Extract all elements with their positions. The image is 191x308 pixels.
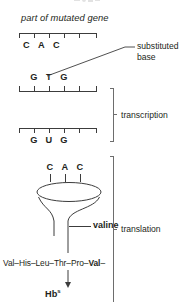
- dna-sense-tick: [19, 33, 20, 38]
- mrna-tick: [49, 128, 50, 133]
- peptide-residue-valine-bold: Val: [88, 258, 100, 268]
- product-symbol: Hb: [45, 289, 57, 299]
- dna-sense-tick: [64, 33, 65, 38]
- trna-anticodon-base: A: [59, 162, 71, 172]
- mrna-tick: [96, 128, 97, 133]
- substituted-base-label-line2: base: [137, 52, 179, 63]
- transcription-bracket-bottom-cap: [110, 141, 114, 142]
- translation-label: translation: [121, 224, 161, 235]
- translation-bracket-nub: [113, 229, 117, 230]
- dna-template-tick: [19, 86, 20, 91]
- mrna-base: G: [28, 135, 40, 145]
- product-superscript: s: [57, 288, 60, 294]
- valine-leader: [69, 225, 91, 228]
- mrna-strand: G U G: [19, 128, 97, 148]
- dna-sense-base: C: [21, 40, 33, 50]
- peptide-trailing-dash: –: [100, 258, 105, 268]
- peptide-residues-plain: Val–His–Leu–Thr–Pro–: [3, 258, 88, 268]
- figure-caption: part of mutated gene: [21, 12, 109, 23]
- peptide-chain: Val–His–Leu–Thr–Pro–Val–: [3, 258, 105, 268]
- transcription-bracket: [110, 88, 120, 142]
- dna-sense-base: A: [36, 40, 48, 50]
- mrna-base: U: [43, 135, 55, 145]
- substituted-base-label-line1: substituted: [137, 41, 179, 52]
- mrna-tick: [64, 128, 65, 133]
- trna-anticodon-base: C: [44, 162, 56, 172]
- dna-template-tick: [49, 86, 50, 91]
- substituted-base-label: substituted base: [137, 41, 179, 62]
- dna-sense-tick: [34, 33, 35, 38]
- substituted-base-leader: [47, 45, 135, 79]
- mrna-tick: [79, 128, 80, 133]
- mrna-backbone: [19, 128, 97, 129]
- transcription-label: transcription: [121, 110, 168, 121]
- dna-template-tick: [79, 86, 80, 91]
- dna-sense-tick: [79, 33, 80, 38]
- clipped-top-artifact: [74, 0, 100, 4]
- dna-template-tick: [96, 86, 97, 91]
- trna-anticodon-base: C: [74, 162, 86, 172]
- trna-molecule-shape: [30, 181, 110, 253]
- product-arrow: [62, 270, 74, 290]
- translation-bracket: [110, 156, 120, 302]
- mrna-base: G: [58, 135, 70, 145]
- dna-sense-backbone: [19, 33, 97, 34]
- dna-template-tick: [64, 86, 65, 91]
- product-label: Hbs: [45, 288, 61, 299]
- dna-template-backbone: [19, 91, 97, 92]
- dna-sense-tick: [96, 33, 97, 38]
- dna-template-tick: [34, 86, 35, 91]
- mrna-tick: [19, 128, 20, 133]
- dna-template-base: G: [28, 72, 40, 82]
- transcription-bracket-nub: [113, 114, 117, 115]
- dna-sense-tick: [49, 33, 50, 38]
- transcription-bracket-spine: [113, 88, 114, 142]
- mrna-tick: [34, 128, 35, 133]
